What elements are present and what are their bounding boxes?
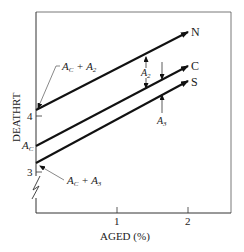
ac-intercept-label: AC <box>21 139 34 153</box>
svg-text:AC + A3: AC + A3 <box>66 174 102 188</box>
y-axis-label: DEATHRT <box>10 92 22 142</box>
line-c <box>36 66 188 146</box>
svg-text:A3: A3 <box>156 115 167 128</box>
a3-gap-indicator: A3 <box>156 95 167 128</box>
y-tick-4: 4 <box>27 110 33 122</box>
y-tick-3: 3 <box>27 166 33 178</box>
svg-text:AC + A2: AC + A2 <box>61 60 97 74</box>
x-tick-1: 1 <box>114 215 120 227</box>
x-axis-ticks: 1 2 <box>114 207 191 227</box>
plot-frame <box>36 12 231 213</box>
regression-diagram: 4 3 1 2 AGED (%) DEATHRT N C S AC + A2 A… <box>0 0 244 252</box>
line-n-label: N <box>191 25 200 39</box>
line-n <box>36 32 188 110</box>
line-s-label: S <box>191 75 198 89</box>
callout-ac-plus-a3: AC + A3 <box>40 166 102 188</box>
axis-break-icon <box>32 176 40 199</box>
x-tick-2: 2 <box>185 215 191 227</box>
svg-text:A2: A2 <box>140 67 151 80</box>
x-axis-label: AGED (%) <box>100 230 150 243</box>
a2-gap-indicator: A2 <box>140 57 151 88</box>
line-c-label: C <box>191 59 199 73</box>
